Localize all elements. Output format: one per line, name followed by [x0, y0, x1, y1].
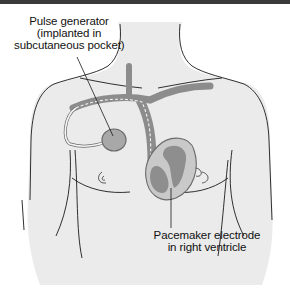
pacemaker-electrode-label: Pacemaker electrode in right ventricle [144, 229, 270, 253]
pulse-generator-label-line1: Pulse generator [14, 15, 124, 27]
pulse-generator-label-line3: subcutaneous pocket) [14, 39, 124, 51]
pulse-generator-label: Pulse generator (implanted in subcutaneo… [14, 15, 124, 51]
pulse-generator-label-line2: (implanted in [14, 27, 124, 39]
pulse-generator-device [102, 129, 126, 151]
pacemaker-electrode-label-line1: Pacemaker electrode [144, 229, 270, 241]
pacemaker-electrode-label-line2: in right ventricle [144, 241, 270, 253]
